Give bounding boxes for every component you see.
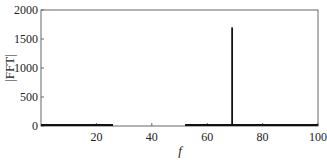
y-tick-label: 1000 (14, 61, 38, 75)
fft-chart: 0500100015002000 20406080100 f |FFT| (0, 0, 327, 163)
x-tick-label: 80 (257, 130, 269, 144)
y-tick-label: 0 (32, 119, 38, 133)
x-axis-label: f (178, 143, 184, 158)
y-axis: 0500100015002000 (14, 3, 44, 133)
y-tick-label: 500 (20, 90, 38, 104)
fft-series (41, 27, 318, 126)
y-tick-label: 2000 (14, 3, 38, 17)
x-tick-label: 60 (201, 130, 213, 144)
y-tick-label: 1500 (14, 32, 38, 46)
x-tick-label: 20 (90, 130, 102, 144)
plot-frame (41, 10, 318, 126)
x-tick-label: 100 (309, 130, 327, 144)
x-tick-label: 40 (146, 130, 158, 144)
y-axis-label: |FFT| (2, 54, 17, 82)
